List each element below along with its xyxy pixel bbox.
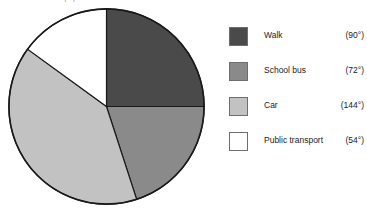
pie-slice-group — [9, 9, 204, 204]
legend-item-label: Walk — [264, 29, 283, 41]
caption-text: distribution of how pupils travel to sch… — [0, 0, 367, 2]
legend-item[interactable]: (90°)Walk — [229, 24, 367, 59]
legend-item-label: Public transport — [264, 134, 323, 146]
legend-item[interactable]: (144°)Car — [229, 94, 367, 129]
legend-item-value: (90°) — [229, 29, 364, 41]
pie-chart — [8, 8, 205, 205]
legend-item[interactable]: (72°)School bus — [229, 59, 367, 94]
legend-item[interactable]: (54°)Public transport — [229, 129, 367, 164]
legend: (90°)Walk(72°)School bus(144°)Car(54°)Pu… — [229, 24, 367, 164]
pie-chart-svg — [8, 8, 205, 205]
cut-off-caption: distribution of how pupils travel to sch… — [0, 0, 367, 2]
legend-item-label: School bus — [264, 64, 306, 76]
pie-chart-figure: distribution of how pupils travel to sch… — [0, 0, 367, 211]
legend-item-label: Car — [264, 99, 278, 111]
pie-slice[interactable] — [107, 9, 205, 107]
legend-item-value: (144°) — [229, 99, 364, 111]
